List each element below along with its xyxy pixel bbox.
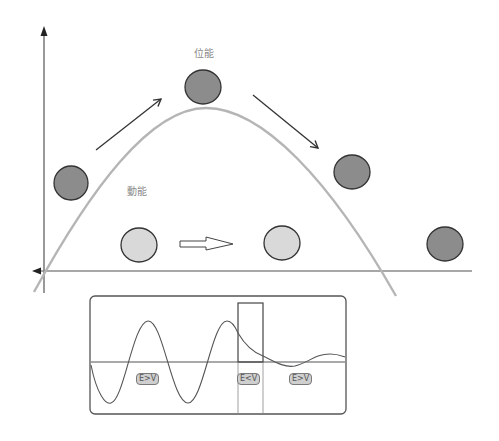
x-axis-arrowhead-icon xyxy=(32,268,41,275)
ball-ground-right xyxy=(427,227,463,261)
ball-ground-left xyxy=(121,228,157,262)
axes xyxy=(32,26,472,293)
arrow-down-right-icon xyxy=(253,95,318,148)
ball-right xyxy=(334,155,370,189)
inset-frame xyxy=(90,296,346,414)
region-label-classical-left: E>V xyxy=(136,373,159,385)
hollow-arrow-right-icon xyxy=(180,237,233,250)
ball-ground-middle xyxy=(264,226,300,260)
region-label-barrier: E<V xyxy=(237,373,260,385)
ball-left xyxy=(54,166,88,200)
ball-top xyxy=(185,70,221,104)
kinetic-energy-label: 動能 xyxy=(127,183,147,198)
potential-energy-label: 位能 xyxy=(194,45,214,60)
arrow-up-right-icon xyxy=(96,99,161,150)
y-axis-arrowhead-icon xyxy=(41,26,48,36)
tunneling-inset xyxy=(90,296,346,414)
region-label-classical-right: E>V xyxy=(289,373,312,385)
potential-curve xyxy=(34,108,396,296)
